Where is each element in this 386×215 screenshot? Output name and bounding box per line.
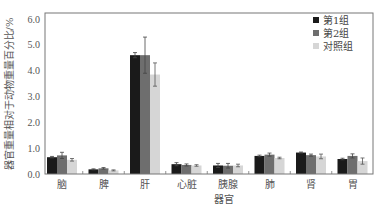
bar-series [47, 37, 368, 174]
legend-swatch [313, 43, 319, 49]
bar [67, 160, 77, 174]
y-tick-label: 1.0 [28, 143, 41, 154]
x-category-label: 脾 [99, 178, 109, 190]
y-axis-title: 器官重量相对于动物重量百分比/% [3, 18, 15, 171]
y-tick-label: 3.0 [28, 91, 41, 102]
bar [130, 55, 140, 174]
y-tick-label: 5.0 [28, 39, 41, 50]
y-tick-label: 0.0 [28, 169, 41, 180]
bar [265, 155, 275, 174]
y-tick-label: 2.0 [28, 117, 41, 128]
x-axis-title: 器官 [214, 193, 234, 205]
x-axis: 脑脾肝心脏胰腺肺肾胃 [57, 178, 358, 190]
bar-chart: 0.01.02.03.04.05.06.0 脑脾肝心脏胰腺肺肾胃 器官 器官重量… [0, 0, 386, 215]
bar [47, 157, 57, 174]
bar [306, 155, 316, 174]
legend-label: 第1组 [323, 14, 349, 26]
bar [275, 158, 285, 174]
bar [338, 159, 348, 174]
x-category-label: 肾 [306, 179, 316, 190]
legend-label: 第2组 [323, 27, 349, 39]
bar [296, 153, 306, 174]
x-category-label: 肝 [140, 179, 150, 190]
x-category-label: 脑 [57, 178, 67, 190]
y-tick-label: 6.0 [28, 14, 41, 25]
x-category-label: 心脏 [177, 178, 197, 190]
x-category-label: 胰腺 [218, 178, 238, 190]
legend-swatch [313, 30, 319, 36]
bar [150, 75, 160, 174]
bar [192, 165, 202, 174]
bar [255, 156, 265, 174]
x-category-label: 肺 [265, 179, 275, 190]
y-axis: 0.01.02.03.04.05.06.0 [28, 14, 41, 180]
y-tick-label: 4.0 [28, 65, 41, 76]
legend-swatch [313, 17, 319, 23]
legend: 第1组第2组对照组 [313, 14, 353, 52]
legend-label: 对照组 [323, 40, 353, 52]
bar [348, 156, 358, 174]
x-category-label: 胃 [348, 179, 358, 190]
